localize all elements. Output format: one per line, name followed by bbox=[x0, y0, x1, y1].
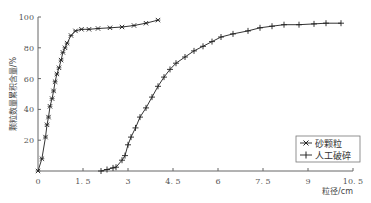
x-tick-label: 9 bbox=[305, 177, 310, 186]
axes: 01. 534. 567. 5910. 5 20406080100 颗粒数量累积… bbox=[8, 13, 363, 196]
plus-marker-icon bbox=[269, 23, 275, 29]
plus-marker-icon bbox=[218, 34, 224, 40]
series-sand bbox=[36, 18, 161, 173]
plus-marker-icon bbox=[281, 22, 287, 28]
x-star-marker-icon bbox=[108, 26, 113, 30]
x-star-marker-icon bbox=[132, 23, 137, 27]
plus-marker-icon bbox=[122, 153, 128, 159]
plus-marker-icon bbox=[245, 28, 251, 34]
cumulative-particle-chart: 01. 534. 567. 5910. 5 20406080100 颗粒数量累积… bbox=[0, 0, 371, 203]
x-axis-title: 粒径/cm bbox=[322, 186, 353, 196]
x-star-marker-icon bbox=[144, 21, 149, 25]
plus-marker-icon bbox=[125, 142, 131, 148]
x-star-marker-icon bbox=[65, 41, 70, 45]
x-star-marker-icon bbox=[69, 33, 74, 37]
plus-marker-icon bbox=[98, 168, 104, 174]
x-star-marker-icon bbox=[79, 27, 84, 31]
plus-marker-icon bbox=[128, 134, 134, 140]
plus-marker-icon bbox=[209, 39, 215, 45]
x-star-marker-icon bbox=[120, 25, 125, 29]
plus-marker-icon bbox=[311, 21, 317, 27]
x-tick-label: 4. 5 bbox=[165, 177, 180, 186]
plus-marker-icon bbox=[257, 25, 263, 31]
plus-marker-icon bbox=[338, 20, 344, 26]
x-star-marker-icon bbox=[96, 26, 101, 30]
x-tick-label: 10. 5 bbox=[343, 177, 363, 186]
legend: 砂颗粒 人工破碎 bbox=[296, 136, 360, 162]
x-star-marker-icon bbox=[63, 46, 68, 50]
y-tick-label: 80 bbox=[24, 44, 34, 53]
x-star-marker-icon bbox=[156, 18, 161, 22]
plus-marker-icon bbox=[182, 54, 188, 60]
plus-marker-icon bbox=[296, 22, 302, 28]
plus-marker-icon bbox=[230, 31, 236, 37]
y-tick-label: 40 bbox=[24, 105, 34, 114]
x-tick-label: 0 bbox=[35, 177, 40, 186]
plus-marker-icon bbox=[104, 167, 110, 173]
plus-marker-icon bbox=[133, 125, 139, 131]
plus-marker-icon bbox=[155, 83, 161, 89]
x-tick-label: 1. 5 bbox=[75, 177, 90, 186]
y-axis-title: 颗粒数量累积含量/% bbox=[8, 56, 18, 131]
y-tick-label: 20 bbox=[24, 136, 34, 145]
x-star-marker-icon bbox=[73, 29, 78, 33]
y-tick-label: 100 bbox=[19, 13, 34, 22]
legend-label-sand: 砂颗粒 bbox=[315, 138, 342, 149]
plus-marker-icon bbox=[200, 43, 206, 49]
plus-marker-icon bbox=[110, 165, 116, 171]
legend-label-artificial: 人工破碎 bbox=[315, 150, 351, 161]
plus-marker-icon bbox=[323, 20, 329, 26]
x-star-marker-icon bbox=[87, 27, 92, 31]
x-tick-label: 3 bbox=[125, 177, 130, 186]
x-tick-label: 6 bbox=[215, 177, 220, 186]
plus-marker-icon bbox=[137, 114, 143, 120]
y-tick-label: 60 bbox=[24, 75, 34, 84]
x-tick-label: 7. 5 bbox=[255, 177, 270, 186]
plus-marker-icon bbox=[191, 48, 197, 54]
series-line bbox=[38, 20, 158, 171]
plus-marker-icon bbox=[143, 105, 149, 111]
plus-marker-icon bbox=[149, 94, 155, 100]
